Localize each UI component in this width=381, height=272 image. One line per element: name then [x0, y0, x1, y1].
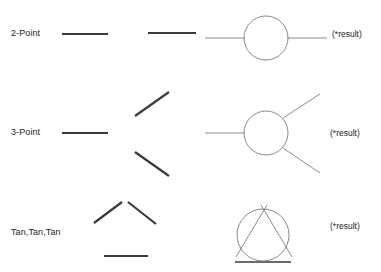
input-segment-right-diagonal: [128, 202, 156, 224]
circle-construction-diagram: 2-Point (*result) 3-Point (*result) Tan,…: [0, 0, 381, 272]
input-segment-left-diagonal: [94, 202, 122, 223]
result-label-tan-tan-tan: (*result): [330, 221, 360, 231]
result-circle-tan-tan-tan: [237, 209, 289, 261]
row-graphics-tan-tan-tan: [0, 0, 381, 272]
